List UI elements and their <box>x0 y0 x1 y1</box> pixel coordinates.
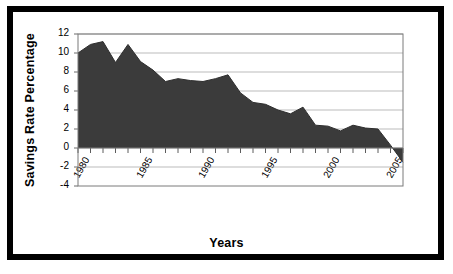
chart-plot-area <box>0 0 453 274</box>
area-series-savings-rate <box>78 42 403 163</box>
figure-root: Savings Rate Percentage Years 121086420-… <box>0 0 453 274</box>
